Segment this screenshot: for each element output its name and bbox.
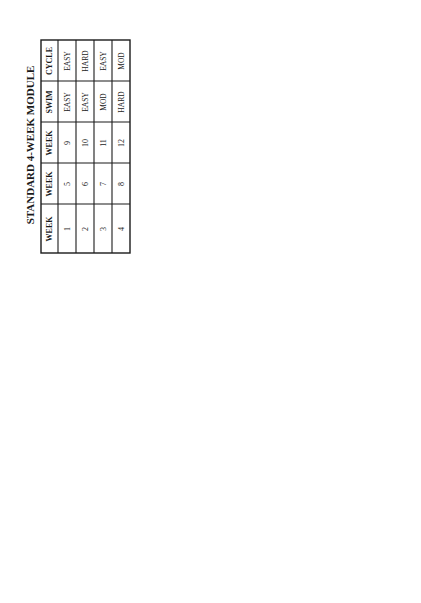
table-cell: EASY [63,92,72,112]
table-header: SWIM [45,90,54,114]
table-cell: 1 [63,227,72,231]
table-header: CYCLE [45,47,54,75]
table-cell: 11 [99,139,108,147]
table-cell: 8 [117,182,126,186]
table-cell: 9 [63,141,72,145]
table-cell: EASY [81,92,90,112]
table-cell: 7 [99,182,108,186]
table-header: WEEK [45,130,54,156]
table-cell: 2 [81,227,90,231]
table-cell: 4 [117,227,126,231]
table-cell: HARD [81,50,90,72]
table-cell: 5 [63,182,72,186]
table-title: STANDARD 4-WEEK MODULE [24,66,36,225]
table-cell: HARD [117,91,126,113]
table-cell: EASY [99,51,108,71]
table-header: WEEK [45,171,54,197]
table-cell: EASY [63,51,72,71]
training-progression-diagram: STANDARD 4-WEEK MODULE WEEK WEEK WEEK SW… [0,0,421,603]
table-cell: 10 [81,139,90,147]
table-cell: MOD [117,52,126,70]
table-cell: 3 [99,227,108,231]
module-table: STANDARD 4-WEEK MODULE WEEK WEEK WEEK SW… [24,40,130,253]
table-cell: 6 [81,182,90,186]
table-header: WEEK [45,216,54,242]
table-cell: MOD [99,93,108,111]
table-cell: 12 [117,139,126,147]
